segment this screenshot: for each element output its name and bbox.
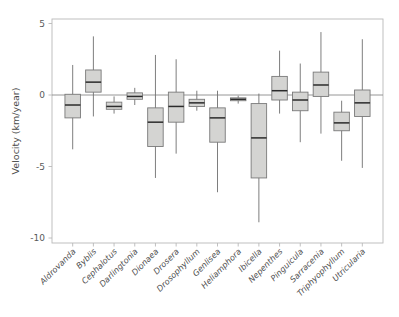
box-quartile-rect xyxy=(334,112,350,131)
y-tick-label: 5 xyxy=(39,19,45,29)
box-quartile-rect xyxy=(86,70,102,92)
y-tick-label: -10 xyxy=(30,233,45,243)
y-tick-label: 0 xyxy=(39,90,45,100)
box-quartile-rect xyxy=(210,108,226,142)
box-quartile-rect xyxy=(272,76,288,100)
box-quartile-rect xyxy=(148,108,164,147)
box-quartile-rect xyxy=(251,104,267,178)
y-tick-label: -5 xyxy=(36,162,45,172)
box-quartile-rect xyxy=(293,92,309,111)
box-plot-figure: 50-5-10 AldrovandaByblisCephalotusDarlin… xyxy=(0,0,399,317)
y-axis-label: Velocity (km/year) xyxy=(10,88,21,175)
velocity-boxplot-chart: 50-5-10 AldrovandaByblisCephalotusDarlin… xyxy=(0,0,399,317)
box-quartile-rect xyxy=(65,94,81,118)
